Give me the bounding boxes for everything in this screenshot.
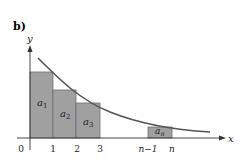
x-axis-arrow-icon xyxy=(219,136,226,141)
tick-3: 3 xyxy=(97,144,103,154)
x-axis-label: x xyxy=(228,133,234,144)
tick-2: 2 xyxy=(74,144,80,154)
panel-label: b) xyxy=(13,20,26,33)
rectangles xyxy=(30,72,172,138)
tick-n: n xyxy=(169,144,175,154)
riemann-sum-diagram: b) x y 0 1 2 3 n−1 n a1 a2 a3 an xyxy=(0,0,241,168)
y-axis-label: y xyxy=(26,33,33,44)
y-axis-arrow-icon xyxy=(28,45,33,52)
tick-1: 1 xyxy=(50,144,56,154)
origin-label: 0 xyxy=(18,144,24,154)
tick-n-minus-1: n−1 xyxy=(138,144,157,154)
